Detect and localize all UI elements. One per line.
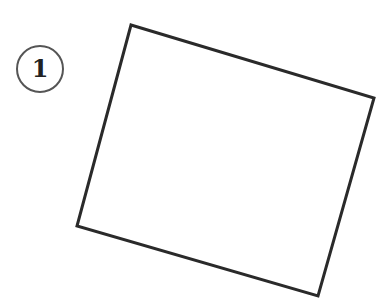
rotated-rectangle-shape [77, 25, 374, 296]
figure-canvas: 1 [0, 0, 379, 300]
step-number-label: 1 [32, 54, 49, 83]
step-badge: 1 [17, 46, 63, 92]
